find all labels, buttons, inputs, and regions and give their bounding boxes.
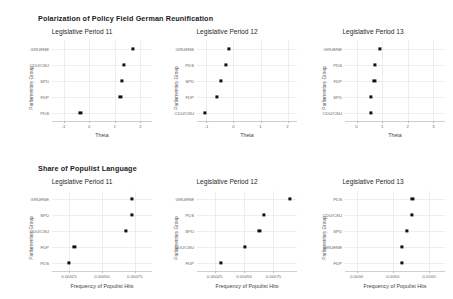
data-point: [132, 47, 135, 50]
x-tick-mark: [102, 271, 103, 273]
y-axis-label: Parliamentary Group: [322, 216, 327, 259]
x-tick-label: 2: [139, 124, 141, 129]
plot-area: 0.000250.000500.00075GRUENEPDSSPDCDU/CSU…: [197, 191, 297, 272]
x-tick-mark: [357, 121, 358, 123]
gridline-vertical: [357, 191, 358, 271]
x-axis-label: Frequency of Populist Hits: [52, 283, 152, 289]
x-tick-mark: [206, 121, 207, 123]
x-axis-label: Frequency of Populist Hits: [345, 283, 445, 289]
y-tick-label: PDS: [40, 111, 49, 116]
data-point: [401, 245, 404, 248]
y-tick-label: GRUENE: [324, 245, 342, 250]
gridline-horizontal: [197, 263, 297, 264]
gridline-horizontal: [52, 49, 152, 50]
data-point: [73, 245, 76, 248]
data-point: [120, 79, 123, 82]
data-point: [405, 229, 408, 232]
x-tick-mark: [89, 121, 90, 123]
gridline-vertical: [89, 41, 90, 121]
x-tick-label: 2: [286, 124, 288, 129]
y-tick-label: SPD: [185, 79, 194, 84]
x-axis-label: Theta: [345, 132, 445, 138]
gridline-horizontal: [345, 113, 445, 114]
x-tick-label: 1: [114, 124, 116, 129]
y-tick-label: SPD: [40, 213, 49, 218]
x-axis-label: Theta: [52, 132, 152, 138]
y-tick-label: SPD: [185, 229, 194, 234]
panel-populist-lp13: Legislative Period 13 Parliamentary Grou…: [297, 178, 449, 298]
y-tick-label: FDP: [333, 79, 342, 84]
y-tick-label: CDU/CSU: [174, 111, 194, 116]
x-tick-label: -1: [205, 124, 209, 129]
x-tick-mark: [273, 271, 274, 273]
y-axis-label: Parliamentary Group: [174, 216, 179, 259]
data-point: [119, 95, 122, 98]
gridline-horizontal: [345, 65, 445, 66]
gridline-vertical: [433, 41, 434, 121]
y-tick-label: GRUENE: [324, 47, 342, 52]
panel-polarization-lp13: Legislative Period 13 Parliamentary Grou…: [297, 28, 449, 148]
panel-populist-lp12: Legislative Period 12 Parliamentary Grou…: [153, 178, 301, 298]
y-tick-label: FDP: [185, 261, 194, 266]
y-tick-label: CDU/CSU: [29, 63, 49, 68]
x-tick-label: 0.0050: [386, 274, 399, 279]
y-tick-label: GRUENE: [176, 197, 194, 202]
x-tick-label: 0.00025: [61, 274, 77, 279]
panel-row-polarization: Legislative Period 11 Parliamentary Grou…: [0, 28, 453, 148]
y-axis-label: Parliamentary Group: [29, 66, 34, 109]
y-tick-label: FDP: [185, 95, 194, 100]
x-tick-label: 0.0100: [422, 274, 435, 279]
data-point: [401, 261, 404, 264]
y-tick-label: CDU/CSU: [29, 229, 49, 234]
data-point: [219, 79, 222, 82]
x-tick-label: 0.00025: [207, 274, 223, 279]
gridline-horizontal: [197, 113, 297, 114]
gridline-vertical: [215, 191, 216, 271]
data-point: [369, 111, 372, 114]
x-tick-label: 0.00050: [236, 274, 252, 279]
x-tick-label: 3: [432, 124, 434, 129]
plot-area: 0123GRUENEPDSFDPSPDCDU/CSU: [345, 41, 445, 122]
plot-area: -1012GRUENECDU/CSUSPDFDPPDS: [52, 41, 152, 122]
gridline-vertical: [102, 191, 103, 271]
x-tick-label: 0: [232, 124, 234, 129]
data-point: [373, 63, 376, 66]
data-point: [227, 47, 230, 50]
y-tick-label: PDS: [40, 261, 49, 266]
plot-area: -1012GRUENEPDSSPDFDPCDU/CSU: [197, 41, 297, 122]
x-tick-mark: [69, 271, 70, 273]
gridline-vertical: [382, 41, 383, 121]
gridline-horizontal: [197, 247, 297, 248]
x-tick-mark: [393, 271, 394, 273]
gridline-vertical: [64, 41, 65, 121]
y-tick-label: SPD: [333, 95, 342, 100]
gridline-horizontal: [345, 49, 445, 50]
gridline-vertical: [261, 41, 262, 121]
gridline-horizontal: [197, 231, 297, 232]
data-point: [131, 213, 134, 216]
x-tick-label: 0.00050: [94, 274, 110, 279]
x-tick-mark: [115, 121, 116, 123]
panel-title: Legislative Period 12: [153, 28, 301, 35]
section-populist: Share of Populist Language Legislative P…: [0, 150, 453, 299]
x-tick-label: 0.0000: [350, 274, 363, 279]
y-tick-label: FDP: [40, 95, 49, 100]
data-point: [262, 213, 265, 216]
data-point: [79, 111, 82, 114]
y-tick-label: FDP: [333, 261, 342, 266]
gridline-vertical: [408, 41, 409, 121]
gridline-vertical: [206, 41, 207, 121]
y-tick-label: PDS: [185, 213, 194, 218]
gridline-horizontal: [197, 65, 297, 66]
gridline-vertical: [244, 191, 245, 271]
section-title-populist: Share of Populist Language: [38, 164, 137, 173]
x-tick-mark: [429, 271, 430, 273]
data-point: [224, 63, 227, 66]
y-axis-label: Parliamentary Group: [322, 66, 327, 109]
panel-title: Legislative Period 13: [297, 28, 449, 35]
gridline-vertical: [357, 41, 358, 121]
gridline-horizontal: [345, 97, 445, 98]
x-tick-label: -1: [62, 124, 66, 129]
y-tick-label: PDS: [185, 63, 194, 68]
x-tick-label: 1: [259, 124, 261, 129]
